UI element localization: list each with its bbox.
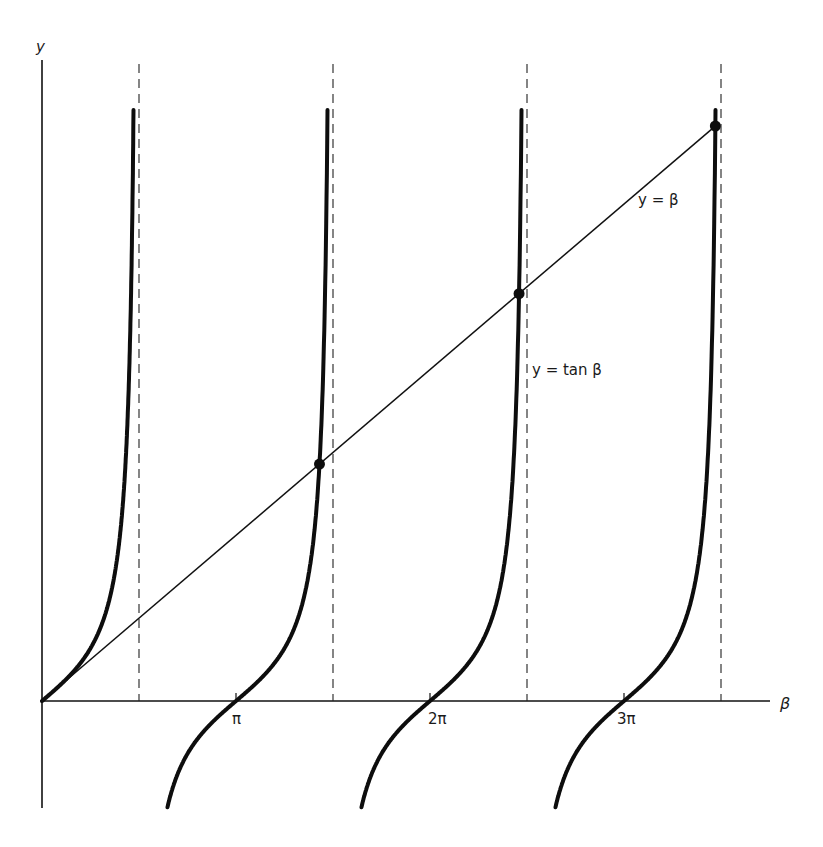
tan-branch-3 [556,110,716,807]
tan-branch-1 [168,110,328,807]
tick-label-3pi: 3π [617,710,636,728]
intersection-point [314,459,325,470]
tick-label-pi: π [232,710,241,728]
line-y-equals-beta-path [42,124,718,701]
intersection-point [710,121,721,132]
line-y-equals-beta [42,124,718,701]
x-axis-label: β [779,694,790,713]
intersection-point [514,288,525,299]
tick-label-2pi: 2π [428,710,447,728]
tan-beta-chart: y β π 2π 3π y = tan β y = β [0,0,823,847]
line-label: y = β [638,191,679,209]
tan-curve-label: y = tan β [532,361,602,379]
tan-branch-2 [362,110,522,807]
y-axis-label: y [35,38,46,56]
labels: y β π 2π 3π y = tan β y = β [35,38,790,728]
tan-curves [42,110,716,807]
asymptotes [139,64,721,701]
tan-branch-0 [42,110,134,701]
